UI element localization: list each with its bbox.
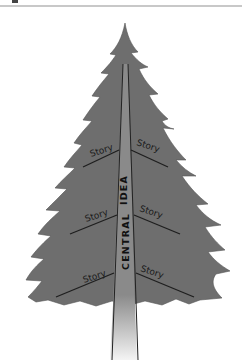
trunk-label-central: CENTRAL bbox=[120, 213, 131, 270]
tree-diagram: Story Story Story Story Story Story CENT… bbox=[0, 0, 250, 360]
trunk-label-idea: IDEA bbox=[118, 175, 129, 205]
